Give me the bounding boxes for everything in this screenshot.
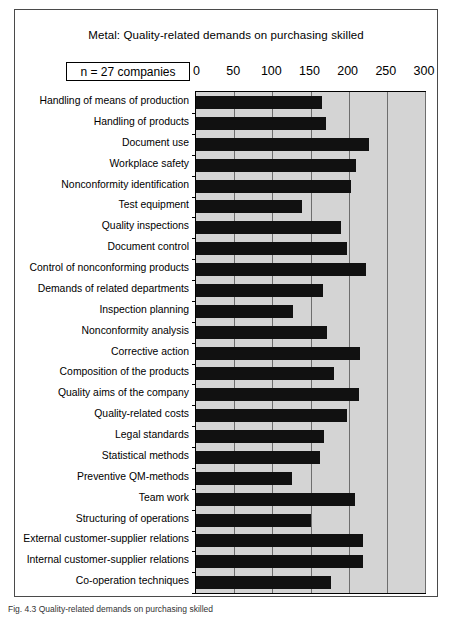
category-label: Quality aims of the company: [58, 383, 189, 404]
category-label: Demands of related departments: [38, 279, 189, 300]
category-label: Composition of the products: [60, 362, 189, 383]
bar: [196, 388, 359, 401]
bar-row: [196, 196, 425, 217]
bar-row: [196, 510, 425, 531]
bar-row: [196, 280, 425, 301]
bar-row: [196, 572, 425, 593]
category-label: Handling of means of production: [39, 91, 189, 112]
bar: [196, 576, 331, 589]
category-label: Document use: [122, 133, 189, 154]
y-axis-tick: [192, 593, 196, 594]
category-label: Internal customer-supplier relations: [27, 550, 189, 571]
gridline: [425, 92, 426, 593]
bar-row: [196, 489, 425, 510]
bar: [196, 305, 293, 318]
x-tick-label: 50: [213, 62, 253, 81]
category-label: Legal standards: [115, 425, 189, 446]
y-axis-category-labels: Handling of means of productionHandling …: [14, 91, 192, 592]
bar: [196, 138, 369, 151]
bar: [196, 451, 320, 464]
x-tick-label: 250: [366, 62, 406, 81]
bar-row: [196, 176, 425, 197]
category-label: Workplace safety: [109, 154, 189, 175]
bar: [196, 242, 347, 255]
bar: [196, 221, 341, 234]
bar-row: [196, 468, 425, 489]
bar-row: [196, 217, 425, 238]
chart-title: Metal: Quality-related demands on purcha…: [14, 29, 438, 41]
bar-row: [196, 92, 425, 113]
x-axis-tick-labels: 050100150200250300: [0, 62, 451, 81]
plot-inner: [196, 92, 425, 593]
bar-row: [196, 322, 425, 343]
category-label: Nonconformity analysis: [82, 321, 189, 342]
bar: [196, 472, 292, 485]
bar-row: [196, 530, 425, 551]
bar: [196, 534, 363, 547]
bar: [196, 409, 347, 422]
category-label: Team work: [139, 488, 189, 509]
category-label: Statistical methods: [102, 446, 189, 467]
bar-row: [196, 238, 425, 259]
plot-area: [195, 91, 426, 594]
category-label: Quality inspections: [102, 216, 189, 237]
bar-row: [196, 113, 425, 134]
category-label: Inspection planning: [99, 300, 189, 321]
bar: [196, 200, 302, 213]
bar-row: [196, 447, 425, 468]
category-label: Structuring of operations: [76, 509, 189, 530]
bar-row: [196, 551, 425, 572]
bar: [196, 430, 324, 443]
category-label: Document control: [108, 237, 189, 258]
bar-row: [196, 155, 425, 176]
x-tick-label: 200: [328, 62, 368, 81]
category-label: Preventive QM-methods: [77, 467, 189, 488]
bar-row: [196, 405, 425, 426]
x-tick-label: 150: [290, 62, 330, 81]
figure-container: Metal: Quality-related demands on purcha…: [0, 0, 451, 619]
figure-caption: Fig. 4.3 Quality-related demands on purc…: [8, 604, 448, 614]
bar-row: [196, 426, 425, 447]
bar: [196, 326, 327, 339]
category-label: Handling of products: [94, 112, 189, 133]
category-label: Corrective action: [111, 342, 189, 363]
bar: [196, 367, 334, 380]
x-tick-label: 100: [251, 62, 291, 81]
bar-row: [196, 301, 425, 322]
category-label: Control of nonconforming products: [30, 258, 189, 279]
bar-row: [196, 134, 425, 155]
bar: [196, 117, 326, 130]
x-tick-label: 300: [404, 62, 444, 81]
bar: [196, 180, 351, 193]
x-tick-label: 0: [193, 62, 213, 81]
bar: [196, 493, 355, 506]
category-label: Test equipment: [119, 195, 189, 216]
category-label: External customer-supplier relations: [23, 529, 189, 550]
category-label: Nonconformity identification: [61, 175, 189, 196]
bar-row: [196, 259, 425, 280]
bar: [196, 284, 323, 297]
bar: [196, 347, 360, 360]
bar-row: [196, 384, 425, 405]
bar: [196, 96, 322, 109]
bar: [196, 159, 356, 172]
bar: [196, 555, 363, 568]
bar: [196, 263, 366, 276]
bar-row: [196, 343, 425, 364]
category-label: Quality-related costs: [94, 404, 189, 425]
bar-row: [196, 363, 425, 384]
category-label: Co-operation techniques: [76, 571, 189, 592]
bar: [196, 514, 311, 527]
